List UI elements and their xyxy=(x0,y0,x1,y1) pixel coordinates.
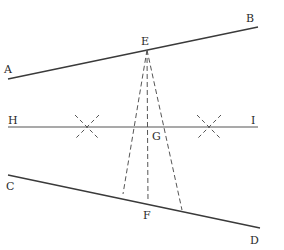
label-c: C xyxy=(6,180,14,193)
dashed-line-ef xyxy=(147,50,148,202)
line-cd xyxy=(8,175,260,228)
label-i: I xyxy=(251,114,255,127)
label-a: A xyxy=(3,63,13,76)
label-h: H xyxy=(8,114,18,127)
label-g: G xyxy=(152,130,161,143)
label-b: B xyxy=(246,12,254,25)
label-d: D xyxy=(250,234,259,247)
dashed-line-e-left xyxy=(123,50,147,194)
line-ab xyxy=(8,27,258,79)
label-f: F xyxy=(143,209,151,222)
label-e: E xyxy=(141,35,149,48)
geometry-diagram: A B E H I G C F D xyxy=(0,0,284,250)
